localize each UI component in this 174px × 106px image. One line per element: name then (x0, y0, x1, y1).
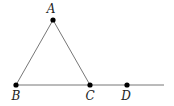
point-b (13, 82, 18, 87)
segment-ab (16, 20, 53, 85)
segment-ac (53, 20, 90, 85)
point-d (124, 82, 129, 87)
label-a: A (46, 2, 56, 16)
geometry-diagram: A B C D (0, 0, 174, 106)
label-b: B (11, 89, 21, 103)
label-c: C (85, 89, 94, 103)
label-d: D (120, 89, 131, 103)
point-c (87, 82, 92, 87)
point-a (50, 17, 55, 22)
